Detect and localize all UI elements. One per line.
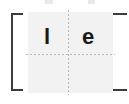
left-bracket-top-arm [11,13,23,15]
right-bracket-top-arm [113,13,127,15]
vertical-center-guide [68,10,69,95]
glyph-l: l [44,26,50,48]
left-bracket-bottom-arm [11,89,23,91]
glyph-e: e [82,26,94,48]
clipped-glyph-remnant-right [88,0,95,4]
content-panel [28,12,113,93]
horizontal-center-guide [26,54,115,55]
left-bracket-stem [11,13,13,91]
right-bracket-bottom-arm [113,89,127,91]
screenshot-canvas: l e [0,0,129,104]
clipped-glyph-remnant-left [45,0,53,4]
